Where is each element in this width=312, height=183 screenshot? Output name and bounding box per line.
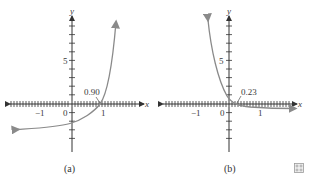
tick-label-0-a: 0: [63, 108, 68, 118]
x-axis-label-b: x: [297, 99, 302, 109]
tick-label-5-b: 5: [219, 56, 224, 66]
y-axis-label-b: y: [226, 6, 231, 16]
annotation-b: 0.23: [241, 87, 257, 97]
annotation-leader-b: [237, 96, 241, 103]
grid-icon[interactable]: [294, 163, 304, 173]
caption-b: (b): [224, 163, 236, 174]
tick-label-1-a: 1: [101, 108, 106, 118]
panel-a: y x 5 0 −1 1 0.90: [10, 6, 149, 152]
tick-label-neg1-b: −1: [191, 108, 201, 118]
caption-a: (a): [64, 163, 75, 174]
tick-label-5-a: 5: [63, 56, 68, 66]
figure-canvas: y x 5 0 −1 1 0.90 y x 5 0 −1 1 0.23: [0, 0, 312, 183]
tick-label-0-b: 0: [220, 108, 225, 118]
panel-b: y x 5 0 −1 1 0.23: [163, 6, 302, 152]
annotation-a: 0.90: [84, 87, 100, 97]
tick-label-1-b: 1: [258, 108, 263, 118]
x-axis-label-a: x: [144, 99, 149, 109]
annotation-leader-a: [96, 97, 100, 103]
tick-label-neg1-a: −1: [35, 108, 45, 118]
y-axis-label-a: y: [69, 6, 74, 16]
